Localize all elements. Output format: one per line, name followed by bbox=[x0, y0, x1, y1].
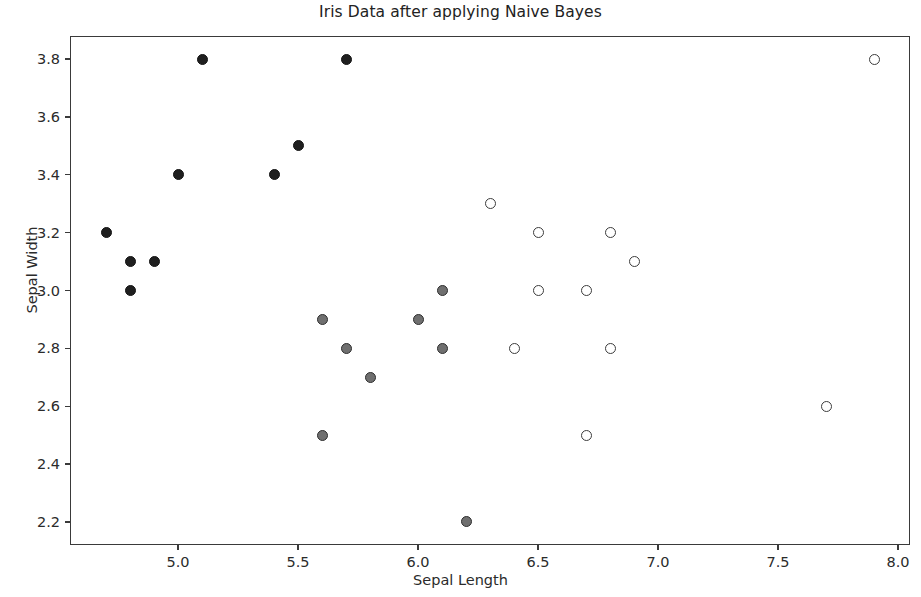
x-tick-label: 5.0 bbox=[166, 554, 189, 570]
x-tick-label: 6.5 bbox=[526, 554, 549, 570]
y-tick-label: 2.6 bbox=[18, 398, 60, 414]
y-tick-mark bbox=[65, 174, 70, 175]
x-tick-label: 8.0 bbox=[886, 554, 909, 570]
x-tick-label: 5.5 bbox=[286, 554, 309, 570]
plot-axes-area bbox=[70, 36, 910, 545]
y-tick-label: 2.4 bbox=[18, 456, 60, 472]
y-tick-mark bbox=[65, 58, 70, 59]
y-tick-label: 3.8 bbox=[18, 51, 60, 67]
y-axis-label: Sepal Width bbox=[24, 200, 40, 340]
y-tick-mark bbox=[65, 116, 70, 117]
x-tick-mark bbox=[777, 545, 778, 550]
x-tick-mark bbox=[297, 545, 298, 550]
y-tick-mark bbox=[65, 463, 70, 464]
x-tick-mark bbox=[417, 545, 418, 550]
x-tick-mark bbox=[177, 545, 178, 550]
x-tick-mark bbox=[657, 545, 658, 550]
y-tick-mark bbox=[65, 290, 70, 291]
x-tick-mark bbox=[537, 545, 538, 550]
x-tick-label: 7.5 bbox=[766, 554, 789, 570]
y-tick-mark bbox=[65, 406, 70, 407]
y-tick-label: 2.8 bbox=[18, 340, 60, 356]
x-tick-mark bbox=[897, 545, 898, 550]
y-tick-label: 3.4 bbox=[18, 167, 60, 183]
y-tick-mark bbox=[65, 521, 70, 522]
page-title: Iris Data after applying Naive Bayes bbox=[0, 3, 921, 21]
y-tick-label: 3.6 bbox=[18, 109, 60, 125]
y-tick-mark bbox=[65, 232, 70, 233]
x-axis-label: Sepal Length bbox=[0, 572, 921, 588]
x-tick-label: 6.0 bbox=[406, 554, 429, 570]
y-tick-label: 2.2 bbox=[18, 514, 60, 530]
y-tick-mark bbox=[65, 348, 70, 349]
x-tick-label: 7.0 bbox=[646, 554, 669, 570]
figure-canvas: Iris Data after applying Naive Bayes 5.0… bbox=[0, 0, 921, 597]
